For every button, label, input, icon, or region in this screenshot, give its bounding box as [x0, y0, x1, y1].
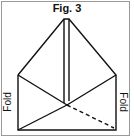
right-fold-line [67, 75, 116, 105]
bottom-diagonal-line [18, 105, 67, 130]
left-fold-line [18, 75, 67, 105]
figure-title: Fig. 3 [53, 2, 82, 14]
left-fold-label: Fold [2, 92, 13, 111]
right-fold-label: Fold [118, 92, 129, 111]
outer-outline [18, 19, 116, 130]
dashed-fold-line [67, 105, 114, 128]
fold-diagram: Fig. 3 Fold Fold [0, 0, 134, 140]
